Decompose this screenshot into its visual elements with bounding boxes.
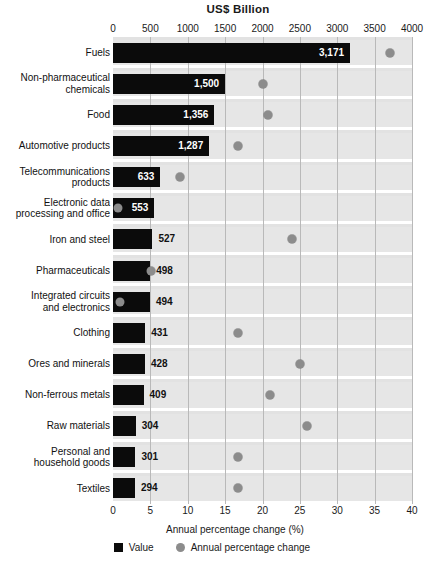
chart-bottom-axis-title-text: Annual percentage change (%) (166, 524, 304, 535)
legend-label: Annual percentage change (191, 542, 311, 553)
category-label: Raw materials (0, 420, 110, 432)
category-label-line: Textiles (0, 483, 110, 495)
percentage-change-dot (115, 297, 124, 306)
category-label-line: Raw materials (0, 420, 110, 432)
percentage-change-dot (175, 173, 184, 182)
percentage-change-dot (287, 235, 296, 244)
category-label-line: and electronics (0, 302, 110, 314)
value-bar (113, 385, 144, 405)
category-label-line: Iron and steel (0, 234, 110, 246)
category-label-line: Pharmaceuticals (0, 265, 110, 277)
bar-value-label: 494 (156, 292, 173, 312)
category-label-line: Telecommunications (0, 166, 110, 178)
chart-container: US$ Billion 0500100015002000250030003500… (0, 0, 424, 571)
chart-top-axis-title-text: US$ Billion (207, 3, 270, 15)
top-axis-tick-label: 0 (110, 23, 116, 34)
bar-value-label: 428 (151, 354, 168, 374)
bar-value-label: 431 (151, 323, 168, 343)
top-axis-tick-label: 2500 (289, 23, 311, 34)
bar-value-label: 498 (156, 261, 173, 281)
top-axis-tick-label: 2000 (251, 23, 273, 34)
bottom-axis-tick-label: 30 (332, 505, 343, 516)
percentage-change-dot (233, 484, 242, 493)
category-label: Electronic dataprocessing and office (0, 197, 110, 220)
plot-area: 3,1711,5001,3561,28763355352749849443142… (113, 37, 412, 504)
bottom-axis-tick-label: 0 (110, 505, 116, 516)
top-axis-ticks: 05001000150020002500300035004000 (113, 23, 412, 37)
value-bar (113, 416, 136, 436)
bottom-axis-tick-label: 5 (148, 505, 154, 516)
bar-value-label: 1,287 (113, 136, 203, 156)
category-label-line: processing and office (0, 208, 110, 220)
value-bar (113, 229, 152, 249)
category-label: Non-ferrous metals (0, 389, 110, 401)
percentage-change-dot (265, 391, 274, 400)
category-label-line: Non-ferrous metals (0, 389, 110, 401)
top-axis-tick-label: 1000 (177, 23, 199, 34)
percentage-change-dot (233, 141, 242, 150)
category-label-line: household goods (0, 457, 110, 469)
category-label: Clothing (0, 327, 110, 339)
percentage-change-dot (233, 453, 242, 462)
percentage-change-dot (295, 359, 304, 368)
value-bar (113, 447, 135, 467)
gridline (300, 37, 301, 504)
category-label-line: Food (0, 109, 110, 121)
category-label: Automotive products (0, 140, 110, 152)
gridline (337, 37, 338, 504)
chart-legend: ValueAnnual percentage change (0, 542, 424, 553)
value-bar (113, 354, 145, 374)
top-axis-tick-label: 1500 (214, 23, 236, 34)
bar-value-label: 294 (141, 478, 158, 498)
bottom-axis-ticks: 0510152025303540 (113, 505, 412, 519)
category-label: Integrated circuitsand electronics (0, 290, 110, 313)
gridline (225, 37, 226, 504)
category-label-line: products (0, 177, 110, 189)
top-axis-tick-label: 3000 (326, 23, 348, 34)
bottom-axis-tick-label: 10 (182, 505, 193, 516)
bottom-axis-tick-label: 15 (220, 505, 231, 516)
bar-value-label: 409 (150, 385, 167, 405)
gridline (412, 37, 413, 504)
category-label: Non-pharmaceuticalchemicals (0, 72, 110, 95)
category-label: Iron and steel (0, 234, 110, 246)
top-axis-tick-label: 500 (142, 23, 159, 34)
legend-item[interactable]: Annual percentage change (176, 542, 311, 553)
category-label-line: Fuels (0, 47, 110, 59)
category-label-line: Non-pharmaceutical (0, 72, 110, 84)
percentage-change-dot (114, 204, 123, 213)
bottom-axis-tick-label: 20 (257, 505, 268, 516)
category-label-line: Integrated circuits (0, 290, 110, 302)
bottom-axis-tick-label: 25 (294, 505, 305, 516)
category-label: Telecommunicationsproducts (0, 166, 110, 189)
bar-value-label: 527 (158, 229, 175, 249)
bar-value-label: 301 (141, 447, 158, 467)
top-axis-tick-label: 3500 (364, 23, 386, 34)
top-axis-tick-label: 4000 (401, 23, 423, 34)
category-label-line: Automotive products (0, 140, 110, 152)
bar-value-label: 1,356 (113, 105, 208, 125)
category-label-line: Clothing (0, 327, 110, 339)
bar-value-label: 304 (142, 416, 159, 436)
chart-bottom-axis-title: Annual percentage change (%) (0, 524, 424, 535)
bottom-axis-tick-label: 40 (406, 505, 417, 516)
percentage-change-dot (263, 110, 272, 119)
gridline (263, 37, 264, 504)
value-bar (113, 261, 150, 281)
percentage-change-dot (385, 48, 394, 57)
legend-label: Value (129, 542, 154, 553)
value-bar (113, 323, 145, 343)
legend-item[interactable]: Value (114, 542, 154, 553)
bottom-axis-tick-label: 35 (369, 505, 380, 516)
percentage-change-dot (258, 79, 267, 88)
category-label-line: Electronic data (0, 197, 110, 209)
percentage-change-dot (303, 422, 312, 431)
gridline (375, 37, 376, 504)
category-label-line: Ores and minerals (0, 358, 110, 370)
category-label-line: Personal and (0, 446, 110, 458)
category-label-line: chemicals (0, 84, 110, 96)
category-label: Food (0, 109, 110, 121)
category-label: Personal andhousehold goods (0, 446, 110, 469)
chart-top-axis-title: US$ Billion (0, 3, 424, 15)
value-bar (113, 478, 135, 498)
